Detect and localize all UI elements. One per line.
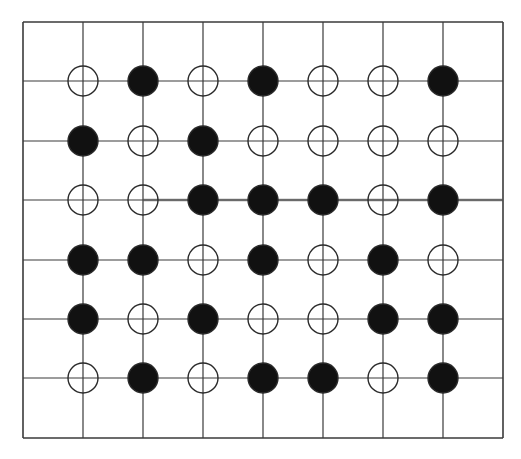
filled-node-icon xyxy=(68,304,98,334)
open-node-icon xyxy=(308,126,338,156)
open-node-icon xyxy=(188,66,218,96)
open-node-icon xyxy=(428,126,458,156)
open-node-icon xyxy=(68,363,98,393)
open-node-icon xyxy=(128,304,158,334)
filled-node-icon xyxy=(188,185,218,215)
filled-node-icon xyxy=(428,66,458,96)
filled-node-icon xyxy=(428,304,458,334)
open-node-icon xyxy=(248,304,278,334)
open-node-icon xyxy=(128,126,158,156)
filled-node-icon xyxy=(308,363,338,393)
filled-node-icon xyxy=(368,245,398,275)
filled-node-icon xyxy=(128,66,158,96)
filled-node-icon xyxy=(428,185,458,215)
open-node-icon xyxy=(368,185,398,215)
open-node-icon xyxy=(188,363,218,393)
open-node-icon xyxy=(68,66,98,96)
open-node-icon xyxy=(248,126,278,156)
open-node-icon xyxy=(308,66,338,96)
filled-node-icon xyxy=(308,185,338,215)
filled-node-icon xyxy=(68,245,98,275)
filled-node-icon xyxy=(68,126,98,156)
lattice-diagram xyxy=(0,0,521,459)
filled-node-icon xyxy=(248,185,278,215)
open-node-icon xyxy=(368,363,398,393)
open-node-icon xyxy=(308,304,338,334)
open-node-icon xyxy=(128,185,158,215)
filled-node-icon xyxy=(128,363,158,393)
filled-node-icon xyxy=(128,245,158,275)
open-node-icon xyxy=(368,66,398,96)
filled-node-icon xyxy=(248,66,278,96)
open-node-icon xyxy=(308,245,338,275)
filled-node-icon xyxy=(428,363,458,393)
open-node-icon xyxy=(428,245,458,275)
filled-node-icon xyxy=(248,245,278,275)
open-node-icon xyxy=(188,245,218,275)
open-node-icon xyxy=(368,126,398,156)
filled-node-icon xyxy=(248,363,278,393)
open-node-icon xyxy=(68,185,98,215)
filled-node-icon xyxy=(188,304,218,334)
filled-node-icon xyxy=(368,304,398,334)
filled-node-icon xyxy=(188,126,218,156)
